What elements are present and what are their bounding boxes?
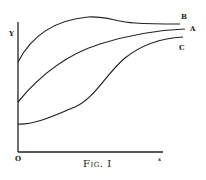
- y-axis-label: Y: [9, 30, 14, 37]
- curve-c: [18, 37, 183, 124]
- curve-label-a: A: [190, 25, 195, 32]
- curve-label-b: B: [181, 13, 187, 20]
- curve-b: [18, 17, 180, 62]
- curve-label-c: C: [179, 44, 185, 51]
- x-axis-label: x: [158, 157, 161, 162]
- origin-label: O: [15, 155, 21, 162]
- figure-plot: [0, 0, 206, 180]
- figure-caption: Fig. I: [83, 159, 112, 169]
